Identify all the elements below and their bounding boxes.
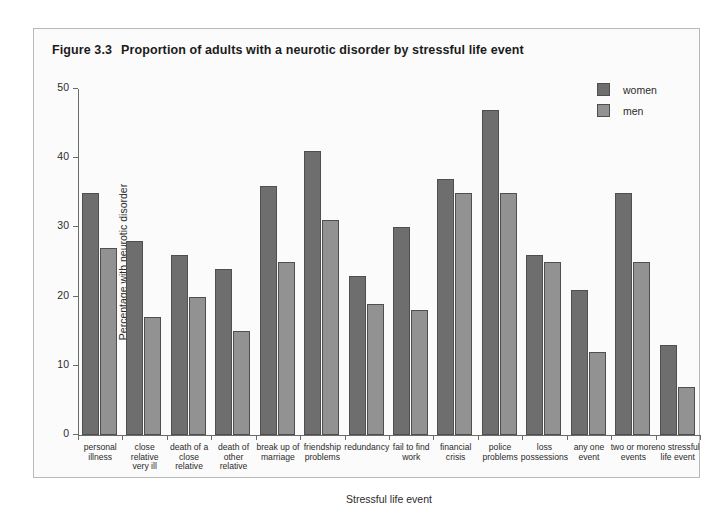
bar-group <box>522 89 566 435</box>
bar-men <box>278 262 295 435</box>
bar-group <box>478 89 522 435</box>
bar-women <box>126 241 143 435</box>
bar-men <box>455 193 472 435</box>
bar-men <box>144 317 161 435</box>
bar-group <box>300 89 344 435</box>
legend-label-men: men <box>623 105 643 117</box>
bar-women <box>571 290 588 435</box>
bar-men <box>500 193 517 435</box>
x-axis-tick <box>433 435 434 440</box>
y-axis-tick-label: 40 <box>57 150 69 162</box>
legend-swatch-women <box>597 83 610 96</box>
bar-men <box>411 310 428 435</box>
bar-men <box>322 220 339 435</box>
chart-plot-area: Percentage with neurotic disorder 010203… <box>78 89 700 435</box>
bar-group <box>78 89 122 435</box>
bar-women <box>171 255 188 435</box>
bar-women <box>82 193 99 435</box>
x-axis-tick <box>211 435 212 440</box>
bar-women <box>660 345 677 435</box>
bar-women <box>482 110 499 435</box>
bar-women <box>393 227 410 435</box>
bar-men <box>633 262 650 435</box>
x-axis-tick <box>78 435 79 440</box>
bar-group <box>611 89 655 435</box>
x-axis-tick <box>256 435 257 440</box>
bar-men <box>233 331 250 435</box>
legend-item-men: men <box>597 100 657 121</box>
x-axis-title: Stressful life event <box>78 493 700 505</box>
figure-title-text: Proportion of adults with a neurotic dis… <box>121 43 524 57</box>
bar-women <box>349 276 366 435</box>
bar-group <box>167 89 211 435</box>
bar-group <box>345 89 389 435</box>
bar-men <box>589 352 606 435</box>
x-axis-tick <box>567 435 568 440</box>
bar-women <box>526 255 543 435</box>
figure-number: Figure 3.3 <box>52 43 112 57</box>
bar-group <box>389 89 433 435</box>
bar-group <box>433 89 477 435</box>
x-axis-tick <box>389 435 390 440</box>
bar-men <box>678 387 695 435</box>
bar-women <box>615 193 632 435</box>
bar-group <box>256 89 300 435</box>
y-axis-tick-label: 10 <box>57 358 69 370</box>
y-axis-tick-label: 0 <box>63 427 69 439</box>
chart-legend: womenmen <box>597 79 657 121</box>
x-axis-tick <box>611 435 612 440</box>
bar-women <box>304 151 321 435</box>
bar-group <box>656 89 700 435</box>
bar-women <box>260 186 277 435</box>
x-axis-tick <box>122 435 123 440</box>
bar-men <box>100 248 117 435</box>
y-axis-tick-label: 20 <box>57 289 69 301</box>
figure-title: Figure 3.3Proportion of adults with a ne… <box>52 43 524 57</box>
bar-men <box>367 304 384 435</box>
bar-women <box>437 179 454 435</box>
bar-men <box>544 262 561 435</box>
x-axis-tick <box>300 435 301 440</box>
x-axis-tick <box>478 435 479 440</box>
y-axis-tick-label: 50 <box>57 81 69 93</box>
bar-men <box>189 297 206 435</box>
x-axis-tick <box>345 435 346 440</box>
bar-group <box>567 89 611 435</box>
x-axis-tick <box>167 435 168 440</box>
figure-panel: Figure 3.3Proportion of adults with a ne… <box>33 28 700 478</box>
y-axis-tick-label: 30 <box>57 219 69 231</box>
bar-group <box>211 89 255 435</box>
legend-label-women: women <box>623 84 657 96</box>
legend-swatch-men <box>597 104 610 117</box>
x-axis-tick <box>700 435 701 440</box>
x-axis-tick-label: no stressfullife event <box>644 443 712 462</box>
bar-group <box>122 89 166 435</box>
legend-item-women: women <box>597 79 657 100</box>
bar-women <box>215 269 232 435</box>
x-axis-tick <box>522 435 523 440</box>
x-axis-tick <box>656 435 657 440</box>
